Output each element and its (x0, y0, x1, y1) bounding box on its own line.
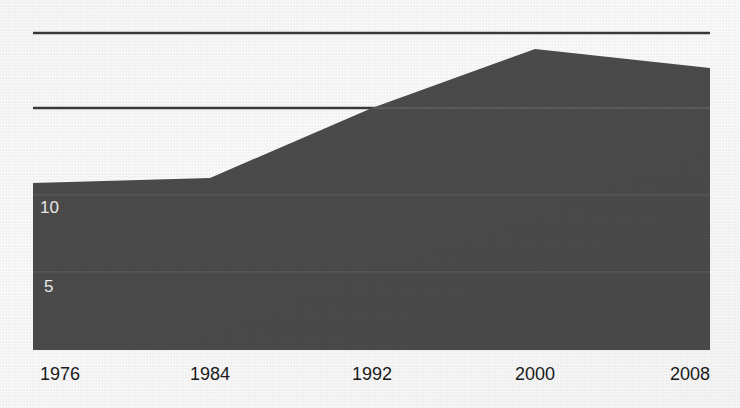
area-chart: 10 5 1976 1984 1992 2000 2008 (0, 0, 740, 408)
y-tick-label-5: 5 (44, 277, 53, 296)
x-tick-label-2008: 2008 (670, 364, 710, 384)
x-tick-label-1976: 1976 (40, 364, 80, 384)
x-tick-label-1992: 1992 (352, 364, 392, 384)
y-tick-label-10: 10 (40, 198, 59, 217)
x-tick-label-2000: 2000 (515, 364, 555, 384)
chart-canvas: 10 5 1976 1984 1992 2000 2008 (0, 0, 740, 408)
x-tick-label-1984: 1984 (190, 364, 230, 384)
area-series-fill (33, 49, 710, 350)
